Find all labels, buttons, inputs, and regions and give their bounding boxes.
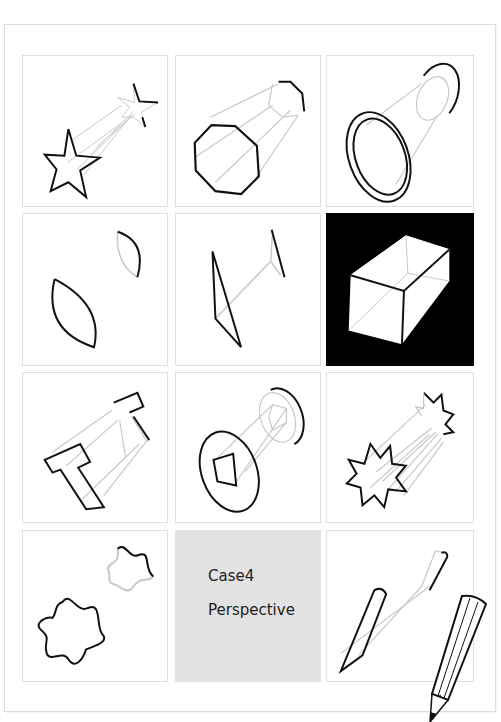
cell-disc-rod [175, 372, 321, 523]
cell-star [22, 55, 168, 207]
pencil-icon [410, 590, 501, 722]
wavy-flower-icon [23, 531, 167, 681]
triangle-plane-icon [176, 214, 320, 365]
ring-cylinder-icon [327, 56, 473, 206]
title-card: Case4 Perspective [175, 530, 321, 682]
octagon-prism-icon [176, 56, 320, 206]
disc-with-square-rod-icon [176, 373, 320, 522]
cropped-header-text [0, 0, 501, 6]
cell-octagon-prism [175, 55, 321, 207]
title-line-subject: Perspective [208, 601, 295, 619]
cell-t-beam [22, 372, 168, 523]
leaf-perspective-icon [23, 214, 167, 365]
title-line-case: Case4 [208, 567, 254, 585]
cell-rectangular-box [326, 213, 474, 366]
cell-ring-cylinder [326, 55, 474, 207]
rectangular-box-icon [327, 214, 473, 365]
cell-leaf [22, 213, 168, 366]
cell-triangle-plane [175, 213, 321, 366]
burst-star-icon [327, 373, 473, 522]
t-beam-icon [23, 373, 167, 522]
star-perspective-icon [23, 56, 167, 206]
cell-burst-star [326, 372, 474, 523]
cell-wavy-flower [22, 530, 168, 682]
